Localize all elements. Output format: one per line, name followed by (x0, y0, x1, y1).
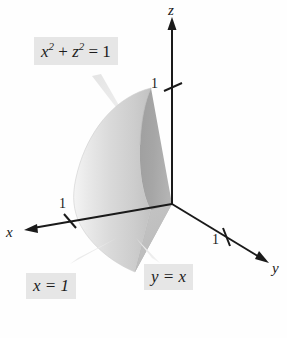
callout-cyl-plus: + (58, 42, 68, 61)
y-axis-arrowhead (255, 251, 269, 263)
callout-cyl-equals: = 1 (89, 42, 111, 61)
cylindrical-surface (74, 88, 151, 272)
figure-canvas: z x y 1 1 1 x2 + z2 = 1 x = 1 y = x (0, 0, 287, 338)
callout-cyl-x: x (41, 42, 49, 61)
z-axis-tick-label: 1 (151, 76, 158, 92)
callout-plane-x: x = 1 (26, 273, 76, 299)
callout-cyl-x-exp: 2 (49, 40, 55, 52)
callout-cyl-z-exp: 2 (79, 40, 85, 52)
callout-cylinder-equation: x2 + z2 = 1 (34, 37, 118, 65)
y-axis-line (172, 204, 261, 258)
callout-cyl-z: z (72, 42, 79, 61)
y-axis-tick-label: 1 (212, 232, 219, 248)
y-axis-tick (223, 228, 230, 246)
callout-plane-yx: y = x (144, 264, 193, 290)
z-axis-label: z (168, 2, 174, 19)
x-axis-label: x (6, 224, 13, 241)
y-axis-label: y (272, 260, 279, 277)
x-axis-tick-label: 1 (59, 196, 66, 212)
x-axis-arrowhead (24, 224, 38, 233)
